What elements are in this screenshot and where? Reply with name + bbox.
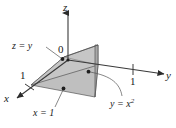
- tick-label-y-1: 1: [130, 76, 136, 87]
- leader-line-x-equals-1: [55, 90, 63, 107]
- tick-label-x-1: 1: [20, 70, 26, 81]
- leader-dot-y-equals-x-squared: [87, 70, 91, 74]
- leader-dot-z-equals-y: [61, 57, 65, 61]
- figure-canvas: z y x 0 1 1 z = y x = 1 y = x2: [0, 0, 176, 128]
- axis-label-z: z: [63, 2, 67, 13]
- origin-dot: [66, 58, 69, 61]
- axis-label-y: y: [166, 70, 171, 81]
- axis-label-x: x: [4, 93, 9, 104]
- label-cylinder-exponent: 2: [131, 97, 135, 105]
- label-cylinder-base: y = x: [110, 98, 131, 109]
- leader-dot-x-equals-1: [62, 87, 66, 91]
- label-plane-z-equals-y: z = y: [12, 41, 32, 51]
- origin-label: 0: [58, 44, 64, 55]
- label-plane-x-equals-1: x = 1: [33, 108, 54, 118]
- diagram-svg: [0, 0, 176, 128]
- label-cylinder-y-equals-x-squared: y = x2: [110, 98, 134, 109]
- surface-plane-x-equals-1: [95, 45, 98, 97]
